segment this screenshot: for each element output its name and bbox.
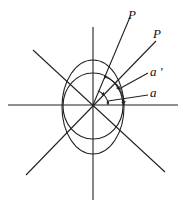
label-p-lower: P	[153, 27, 161, 40]
a-pointer	[108, 95, 148, 101]
label-p-upper: P	[128, 8, 136, 21]
label-a-prime: a '	[150, 65, 163, 78]
diagram: P P a ' a	[0, 0, 183, 211]
angle-arc-inner	[104, 95, 108, 105]
label-a: a	[150, 86, 157, 99]
